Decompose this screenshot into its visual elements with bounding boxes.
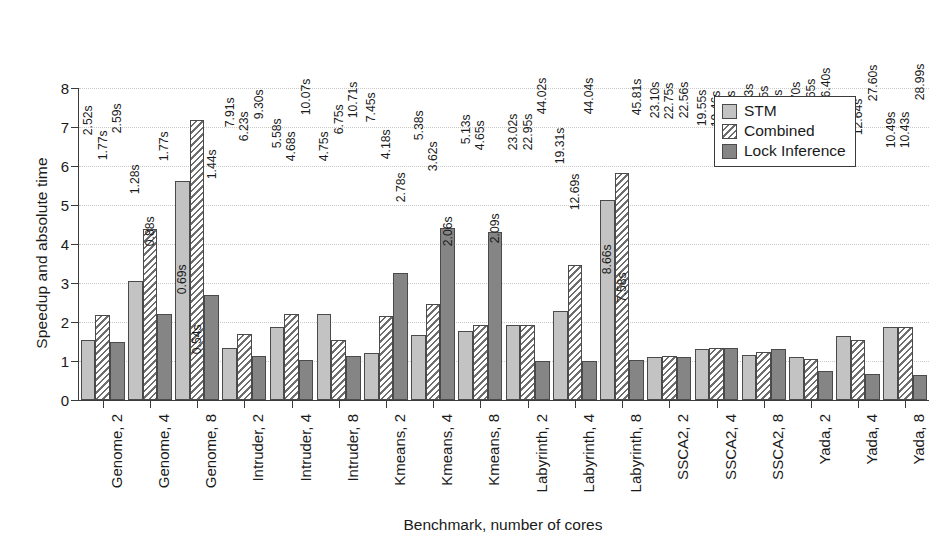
bar-time-label: 2.59s xyxy=(111,103,123,133)
bar-time-label: 45.81s xyxy=(630,79,642,116)
bar-time-label: 2.09s xyxy=(489,214,501,244)
bar: 18.65s xyxy=(804,359,819,400)
bar-time-label: 4.18s xyxy=(380,129,392,159)
bar: 2.06s xyxy=(440,228,455,400)
y-tick-label: 2 xyxy=(45,315,69,330)
bar: 1.28s xyxy=(128,281,143,400)
x-tick-mark xyxy=(528,400,529,408)
bar: 10.43s xyxy=(898,327,913,400)
bar: 26.40s xyxy=(818,371,833,400)
bar: 10.07s xyxy=(299,360,314,400)
bar: 20.10s xyxy=(771,349,786,400)
bar: 22.95s xyxy=(520,325,535,400)
bar-time-label: 10.07s xyxy=(300,78,312,115)
bar: 4.75s xyxy=(317,314,332,400)
bar-time-label: 7.91s xyxy=(223,97,235,127)
x-group-label: Yada, 2 xyxy=(817,414,832,465)
x-group-label: Genome, 2 xyxy=(109,414,124,488)
y-tick-mark xyxy=(71,283,79,284)
legend-item: Combined xyxy=(722,121,846,141)
x-group-label: Intruder, 4 xyxy=(298,414,313,482)
bar: 0.54s xyxy=(190,120,205,400)
x-group-label: Intruder, 2 xyxy=(250,414,265,482)
bar: 1.44s xyxy=(204,295,219,400)
bar-time-label: 8.66s xyxy=(601,245,613,275)
bar: 2.52s xyxy=(81,340,96,400)
x-tick-mark xyxy=(386,400,387,408)
bar-time-label: 6.23s xyxy=(238,111,250,141)
x-tick-mark xyxy=(339,400,340,408)
x-group-label: Kmeans, 2 xyxy=(392,414,407,486)
y-tick-label: 0 xyxy=(45,393,69,408)
x-tick-mark xyxy=(669,400,670,408)
bar: 44.04s xyxy=(582,361,597,400)
bar: 2.59s xyxy=(110,342,125,400)
bar: 5.38s xyxy=(411,335,426,400)
bar: 7.58s xyxy=(615,173,630,400)
x-tick-mark xyxy=(905,400,906,408)
x-group-label: SSCA2, 2 xyxy=(675,414,690,480)
bar: 1.77s xyxy=(157,314,172,400)
legend-swatch-lock xyxy=(722,144,737,159)
bar-time-label: 27.60s xyxy=(867,65,879,102)
legend-label: STM xyxy=(744,103,777,119)
bar: 10.71s xyxy=(346,356,361,400)
y-tick-mark xyxy=(71,244,79,245)
x-tick-mark xyxy=(717,400,718,408)
bar: 45.81s xyxy=(629,360,644,400)
legend-swatch-combined xyxy=(722,124,737,139)
y-tick-label: 5 xyxy=(45,198,69,213)
bar-time-label: 6.75s xyxy=(333,105,345,135)
bar-time-label: 0.54s xyxy=(191,325,203,355)
bar: 23.10s xyxy=(647,357,662,400)
x-tick-mark xyxy=(622,400,623,408)
bar: 19.44s xyxy=(724,348,739,400)
bar: 17.70s xyxy=(789,357,804,400)
bar: 7.45s xyxy=(364,353,379,400)
x-group-label: Genome, 4 xyxy=(156,414,171,488)
bar-time-label: 19.55s xyxy=(696,90,708,127)
legend-swatch-stm xyxy=(722,104,737,119)
bar: 44.02s xyxy=(535,361,550,400)
bar-time-label: 4.65s xyxy=(474,120,486,150)
x-tick-mark xyxy=(244,400,245,408)
x-tick-mark xyxy=(811,400,812,408)
x-tick-mark xyxy=(150,400,151,408)
bar: 18.25s xyxy=(756,352,771,400)
x-axis-title: Benchmark, number of cores xyxy=(78,516,928,534)
bar-time-label: 4.68s xyxy=(285,131,297,161)
bar: 3.62s xyxy=(426,304,441,400)
bar-time-label: 23.02s xyxy=(507,114,519,151)
y-tick-label: 6 xyxy=(45,159,69,174)
bar-time-label: 22.95s xyxy=(521,114,533,151)
x-group-label: Yada, 8 xyxy=(911,414,926,465)
bar: 28.99s xyxy=(913,375,928,400)
y-tick-label: 4 xyxy=(45,237,69,252)
legend: STMCombinedLock Inference xyxy=(714,96,856,167)
bar: 22.75s xyxy=(662,356,677,400)
legend-label: Lock Inference xyxy=(744,143,846,159)
bar: 27.60s xyxy=(865,374,880,400)
x-group-label: Intruder, 8 xyxy=(345,414,360,482)
x-tick-mark xyxy=(433,400,434,408)
legend-label: Combined xyxy=(744,123,815,139)
bar: 1.77s xyxy=(95,315,110,400)
x-tick-mark xyxy=(858,400,859,408)
bar-time-label: 2.06s xyxy=(442,217,454,247)
speedup-bar-chart: Speedup and absolute time 012345678 2.52… xyxy=(0,0,949,559)
y-tick-label: 3 xyxy=(45,276,69,291)
bar: 6.23s xyxy=(237,334,252,400)
bar: 12.64s xyxy=(851,340,866,400)
y-tick-mark xyxy=(71,322,79,323)
x-group-label: Labyrinth, 8 xyxy=(628,414,643,492)
bar: 12.69s xyxy=(568,265,583,400)
bar: 0.88s xyxy=(143,229,158,400)
x-group-label: SSCA2, 4 xyxy=(723,414,738,480)
y-tick-label: 1 xyxy=(45,354,69,369)
bar: 8.66s xyxy=(600,200,615,400)
bar: 5.13s xyxy=(458,331,473,400)
bar-time-label: 0.69s xyxy=(176,264,188,294)
x-group-label: SSCA2, 8 xyxy=(770,414,785,480)
bar-time-label: 44.02s xyxy=(536,77,548,114)
bar-time-label: 3.62s xyxy=(427,142,439,172)
